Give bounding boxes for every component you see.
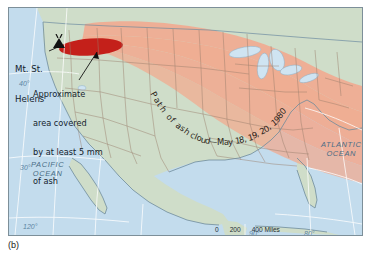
panel-label: (b) bbox=[8, 240, 19, 250]
map-frame: Mt. St. Helens Approximate area covered … bbox=[8, 7, 363, 236]
ash-path-label: Path of ash cloud—May 18,19,20,1980 bbox=[9, 8, 362, 235]
figure-panel: Mt. St. Helens Approximate area covered … bbox=[0, 0, 372, 258]
